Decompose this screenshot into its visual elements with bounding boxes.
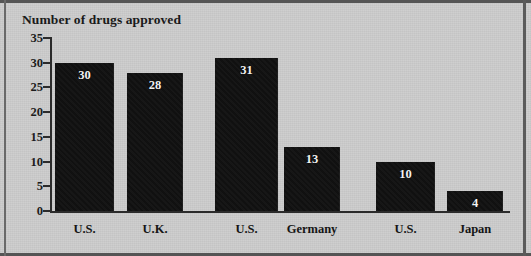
bar-value-label: 31 <box>215 63 278 78</box>
bar-value-label: 13 <box>284 152 340 167</box>
y-tick-mark <box>43 210 52 212</box>
y-tick-mark <box>43 62 52 64</box>
border-left-rule <box>4 0 6 256</box>
y-tick-mark <box>43 111 52 113</box>
y-tick-label: 5 <box>37 179 43 194</box>
y-tick-mark <box>43 136 52 138</box>
y-tick-label: 15 <box>31 129 44 144</box>
plot-area: 35302520151050 30283113104 U.S.U.K.U.S.G… <box>50 38 510 213</box>
y-tick-mark <box>43 37 52 39</box>
chart-title: Number of drugs approved <box>22 12 181 28</box>
bar-value-label: 10 <box>376 167 435 182</box>
y-tick-mark <box>43 161 52 163</box>
x-category-label: Japan <box>447 222 503 237</box>
y-tick-label: 10 <box>31 154 44 169</box>
y-tick-label: 30 <box>31 55 44 70</box>
y-tick-label: 0 <box>37 204 43 219</box>
x-category-label: U.K. <box>127 222 183 237</box>
x-category-label: U.S. <box>55 222 114 237</box>
y-tick-label: 35 <box>31 31 44 46</box>
y-tick-mark <box>43 86 52 88</box>
y-tick-label: 20 <box>31 105 44 120</box>
x-category-label: U.S. <box>215 222 278 237</box>
border-top-rule <box>0 0 531 3</box>
bar-value-label: 28 <box>127 78 183 93</box>
bar: 4 <box>447 191 503 211</box>
bar: 13 <box>284 147 340 211</box>
chart-screenshot: Number of drugs approved 35302520151050 … <box>0 0 531 256</box>
bar-value-label: 30 <box>55 68 114 83</box>
bar: 31 <box>215 58 278 211</box>
x-category-label: Germany <box>284 222 340 237</box>
bar: 10 <box>376 162 435 211</box>
x-category-label: U.S. <box>376 222 435 237</box>
x-axis-line <box>50 211 510 213</box>
bar: 30 <box>55 63 114 211</box>
y-tick-mark <box>43 185 52 187</box>
bar-value-label: 4 <box>447 196 503 211</box>
y-tick-label: 25 <box>31 80 44 95</box>
border-right-rule <box>523 0 526 256</box>
bar: 28 <box>127 73 183 211</box>
